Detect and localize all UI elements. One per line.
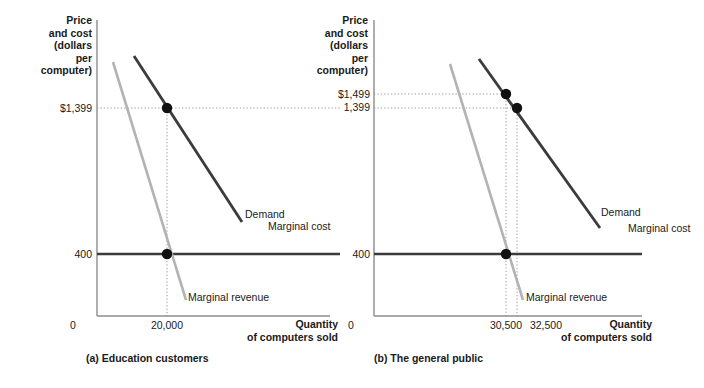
marginal-revenue-curve: [113, 62, 186, 300]
y-tick-1399: 1,399: [302, 101, 370, 114]
demand-curve: [479, 59, 600, 228]
demand-curve-label: Demand: [245, 208, 285, 220]
marginal-revenue-curve-label: Marginal revenue: [188, 291, 269, 303]
marker-mr-equals-mc: [501, 249, 511, 259]
x-axis-title: Quantity of computers sold: [504, 318, 652, 343]
demand-curve-label: Demand: [601, 206, 641, 218]
marginal-cost-curve-label: Marginal cost: [628, 222, 690, 235]
y-tick-1399: $1,399: [24, 102, 92, 115]
marginal-revenue-curve: [450, 64, 523, 300]
y-axis-title: Price and cost (dollars per computer): [290, 14, 368, 77]
x-axis-title: Quantity of computers sold: [190, 318, 338, 343]
y-tick-400: 400: [302, 248, 370, 261]
x-origin-label: 0: [340, 319, 362, 332]
x-origin-label: 0: [62, 319, 84, 332]
demand-curve: [134, 56, 242, 222]
panel-a-caption: (a) Education customers: [86, 352, 209, 364]
panel-b-caption: (b) The general public: [374, 352, 483, 364]
marginal-cost-curve-label: Marginal cost: [268, 220, 330, 233]
marginal-revenue-curve-label: Marginal revenue: [526, 291, 607, 303]
price-discrimination-figure: Price and cost (dollars per computer) $1…: [0, 0, 704, 388]
marker-mr-equals-mc: [162, 249, 172, 259]
marker-price-1499: [501, 89, 511, 99]
y-tick-1499: $1,499: [302, 88, 370, 101]
y-tick-400: 400: [24, 248, 92, 261]
marker-price-1399: [162, 103, 172, 113]
y-axis-title: Price and cost (dollars per computer): [14, 14, 92, 77]
panel-general-public: Price and cost (dollars per computer) $1…: [352, 0, 704, 388]
marker-price-1399: [512, 103, 522, 113]
